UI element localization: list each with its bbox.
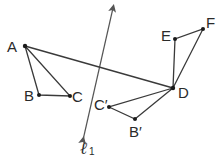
label-line-l1-subscript: 1 — [89, 146, 95, 156]
point-E — [173, 37, 177, 41]
label-A: A — [7, 38, 17, 55]
label-line-l1: ℓ — [80, 139, 87, 156]
label-B: B — [24, 87, 34, 104]
label-E: E — [161, 27, 171, 44]
label-B-prime: B′ — [129, 123, 142, 140]
label-F: F — [206, 14, 215, 31]
point-D — [171, 86, 175, 90]
label-D: D — [178, 84, 189, 101]
label-C: C — [72, 88, 83, 105]
triangle-DEF — [173, 29, 203, 88]
segment-AD — [25, 46, 173, 88]
point-B — [37, 93, 41, 97]
geometry-diagram: A B C D E F C′ B′ ℓ 1 — [0, 0, 221, 156]
triangle-CprimeBprimeD — [109, 88, 173, 119]
point-B-prime — [133, 117, 137, 121]
point-F — [201, 27, 205, 31]
point-A — [23, 44, 27, 48]
line-l1 — [83, 8, 113, 140]
label-C-prime: C′ — [94, 96, 108, 113]
